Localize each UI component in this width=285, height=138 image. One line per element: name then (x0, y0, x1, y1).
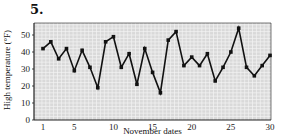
x-tick-label: 20 (187, 122, 197, 132)
data-point (166, 38, 170, 42)
data-point (174, 30, 178, 34)
data-point (221, 66, 225, 70)
data-point (213, 79, 217, 83)
y-tick-label: 0 (26, 115, 31, 125)
x-tick-label: 15 (148, 122, 158, 132)
y-tick-labels: 01020304050 (21, 30, 31, 125)
data-point (80, 49, 84, 53)
data-point (229, 50, 233, 54)
data-point (119, 66, 123, 70)
data-point (41, 47, 45, 51)
data-point (190, 55, 194, 59)
data-point (88, 66, 92, 70)
data-point (96, 86, 100, 90)
y-tick-label: 40 (21, 47, 31, 57)
x-tick-labels: 151015202530 (41, 122, 275, 132)
data-point (268, 54, 272, 58)
data-point (49, 40, 53, 44)
line-chart: 01020304050 151015202530 (0, 0, 285, 138)
data-point (182, 64, 186, 68)
x-tick-label: 5 (72, 122, 77, 132)
data-point (57, 57, 61, 61)
data-point (245, 66, 249, 70)
y-tick-label: 20 (21, 81, 31, 91)
data-point (260, 64, 264, 68)
x-tick-label: 30 (266, 122, 276, 132)
data-point (198, 64, 202, 68)
data-point (159, 91, 163, 95)
data-point (237, 26, 241, 30)
data-point (143, 47, 147, 51)
data-point (73, 69, 77, 73)
y-tick-label: 50 (21, 30, 31, 40)
data-point (253, 74, 257, 78)
data-point (112, 35, 116, 39)
data-point (206, 52, 210, 56)
y-tick-label: 30 (21, 64, 31, 74)
data-point (104, 40, 108, 44)
data-point (151, 71, 155, 75)
y-tick-label: 10 (21, 98, 31, 108)
data-point (135, 83, 139, 87)
x-tick-label: 1 (41, 122, 46, 132)
x-tick-label: 10 (109, 122, 119, 132)
x-tick-label: 25 (226, 122, 236, 132)
data-point (65, 47, 69, 51)
data-point (127, 52, 131, 56)
